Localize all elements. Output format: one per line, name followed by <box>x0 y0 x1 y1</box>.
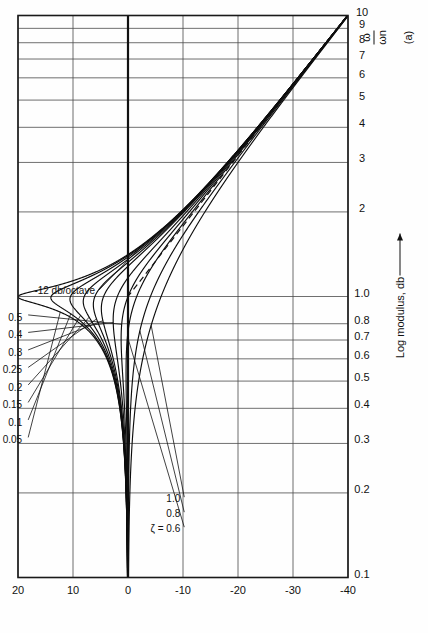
x-tick-label: 0.2 <box>354 482 369 494</box>
x-tick-label: 0.7 <box>354 330 369 342</box>
x-tick-label: 2 <box>359 201 365 213</box>
y-tick-label: -40 <box>340 583 356 595</box>
x-tick-label: 1.0 <box>354 286 369 298</box>
x-tick-label: 6 <box>359 67 365 79</box>
y-tick-label: 20 <box>12 583 24 595</box>
x-axis-title-denominator: ωn <box>376 30 388 45</box>
figure-page: 0.10.20.30.40.50.60.70.81.02345678910 20… <box>0 0 428 633</box>
x-tick-label: 0.6 <box>354 348 369 360</box>
y-axis-title: Log modulus, db <box>394 276 406 357</box>
y-tick-label: -20 <box>230 583 246 595</box>
x-tick-label: 0.1 <box>354 567 369 579</box>
slope-annotation-label: -12 db/octave <box>34 285 95 296</box>
x-tick-label: 0.5 <box>354 371 369 383</box>
curve-label-0-1: 0.1 <box>8 416 22 427</box>
bode-magnitude-chart: 0.10.20.30.40.50.60.70.81.02345678910 20… <box>0 0 428 633</box>
y-tick-label: 10 <box>67 583 79 595</box>
curve-label-0-15: 0.15 <box>3 399 23 410</box>
curve-label-1: 1.0 <box>166 493 180 504</box>
curve-label-0-3: 0.3 <box>8 346 22 357</box>
x-tick-label: 7 <box>359 49 365 61</box>
curve-label-0-4: 0.4 <box>8 329 22 340</box>
y-tick-label: -30 <box>285 583 301 595</box>
y-tick-label: -10 <box>175 583 191 595</box>
y-tick-label: 0 <box>125 583 131 595</box>
x-tick-label: 0.3 <box>354 433 369 445</box>
curve-label-0-05: ζ = 0.05 <box>0 434 23 446</box>
x-tick-label: 0.4 <box>354 398 369 410</box>
x-tick-label: 5 <box>359 90 365 102</box>
x-tick-label: 3 <box>359 152 365 164</box>
x-axis-title-numerator: ω <box>360 32 372 41</box>
curve-label-0-8: 0.8 <box>166 508 180 519</box>
curve-label-0-25: 0.25 <box>3 364 23 375</box>
x-tick-label: 0.8 <box>354 313 369 325</box>
x-tick-label: 4 <box>359 117 365 129</box>
x-tick-label: 9 <box>359 18 365 30</box>
figure-caption: (a) <box>402 30 414 43</box>
x-tick-label: 10 <box>356 5 368 17</box>
rotated-figure-container: 0.10.20.30.40.50.60.70.81.02345678910 20… <box>0 0 428 633</box>
curve-label-0-5: 0.5 <box>8 311 22 322</box>
curve-label-0-2: 0.2 <box>8 381 22 392</box>
curve-label-0-6: ζ = 0.6 <box>151 523 181 535</box>
